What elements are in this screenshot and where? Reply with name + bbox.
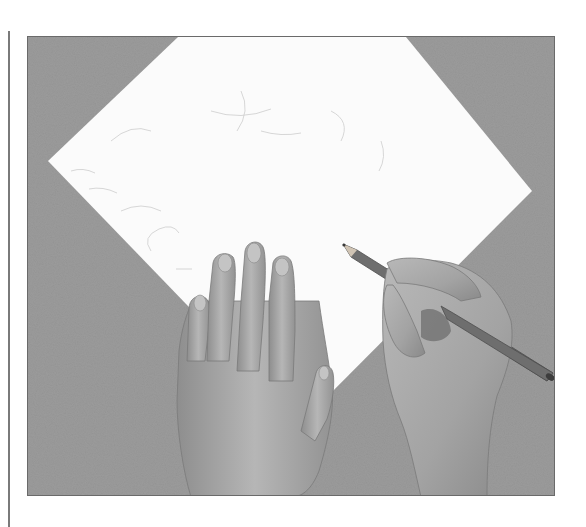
photo-illustration xyxy=(28,37,555,496)
left-vertical-rule xyxy=(8,31,10,527)
photograph: Photograph of two hands on a white sheet… xyxy=(27,36,555,496)
